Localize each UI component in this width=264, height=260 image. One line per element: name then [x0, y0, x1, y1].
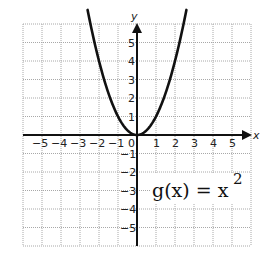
y-tick-label: −3	[120, 185, 136, 198]
y-tick-label: 5	[128, 37, 135, 50]
y-tick-label: −1	[120, 148, 136, 161]
y-tick-label: −2	[120, 166, 136, 179]
x-tick-label: 3	[191, 137, 198, 150]
y-tick-label: 3	[128, 74, 135, 87]
formula-exponent: 2	[233, 170, 243, 188]
y-tick-label: −5	[120, 222, 136, 235]
x-tick-label: 5	[229, 137, 236, 150]
coordinate-plane: −5−4−3−2−1012345−5−4−3−2−112345 x y g(x)…	[0, 0, 264, 260]
x-axis-label: x	[252, 129, 260, 142]
x-tick-label: −3	[70, 137, 86, 150]
x-tick-label: −4	[51, 137, 67, 150]
x-tick-label: −5	[32, 137, 48, 150]
y-axis-label: y	[130, 10, 138, 23]
x-tick-label: 1	[153, 137, 160, 150]
x-tick-label: 2	[172, 137, 179, 150]
y-tick-label: −4	[120, 203, 136, 216]
x-tick-label: −2	[89, 137, 105, 150]
function-formula: g(x) = x	[152, 179, 229, 201]
y-tick-label: 1	[128, 111, 135, 124]
y-tick-label: 2	[128, 92, 135, 105]
x-tick-label: 4	[210, 137, 217, 150]
y-tick-label: 4	[128, 55, 135, 68]
